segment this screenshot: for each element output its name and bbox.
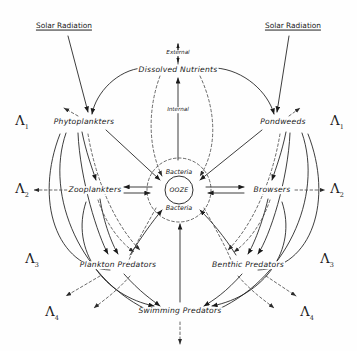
lambda-symbol: Λ bbox=[330, 113, 339, 128]
node-plankton-predators: Plankton Predators bbox=[79, 261, 157, 269]
lambda-symbol: Λ bbox=[15, 181, 24, 196]
arrow-pondweeds-outer-to-swimming-predators bbox=[212, 133, 308, 312]
flow-label-internal: Internal bbox=[166, 107, 190, 113]
lambda-symbol: Λ bbox=[330, 181, 339, 196]
node-browsers: Browsers bbox=[253, 186, 292, 194]
lambda-1-left: Λ1 bbox=[15, 114, 29, 130]
node-dissolved-nutrients: Dissolved Nutrients bbox=[138, 66, 219, 74]
arrow-plankton-predators-dashed-out bbox=[94, 276, 130, 308]
lambda-subscript: 2 bbox=[340, 191, 344, 199]
lambda-subscript: 1 bbox=[25, 123, 29, 131]
arrow-nutrients-dashed-to-bacteria-right bbox=[200, 76, 213, 176]
flow-label-external: External bbox=[165, 50, 190, 56]
arrow-plankton-predators-lambda3 bbox=[66, 276, 100, 296]
lambda-2-left: Λ2 bbox=[15, 182, 29, 198]
lambda-symbol: Λ bbox=[15, 113, 24, 128]
lambda-3-right: Λ3 bbox=[320, 252, 334, 268]
arrow-zooplankters-to-plankton-predators bbox=[100, 199, 118, 254]
lambda-subscript: 3 bbox=[35, 261, 39, 269]
arrow-solar-to-pondweeds bbox=[277, 36, 289, 112]
arrow-benthic-predators-dashed-out bbox=[238, 276, 274, 308]
arrow-plankton-predators-to-swimming-predators bbox=[124, 274, 160, 306]
node-swimming-predators: Swimming Predators bbox=[137, 307, 222, 315]
lambda-4-right: Λ4 bbox=[300, 305, 314, 321]
ooze-label: OOZE bbox=[169, 187, 188, 193]
arrow-plankton-predators-to-bacteria bbox=[130, 210, 162, 255]
node-benthic-predators: Benthic Predators bbox=[211, 261, 285, 269]
lambda-2-right: Λ2 bbox=[330, 182, 344, 198]
lambda-subscript: 1 bbox=[340, 123, 344, 131]
node-zooplankters: Zooplankters bbox=[67, 186, 122, 194]
bacteria-label-top: Bacteria bbox=[166, 169, 193, 175]
arrow-benthic-predators-to-bacteria bbox=[200, 210, 236, 255]
node-phytoplankters: Phytoplankters bbox=[53, 118, 116, 126]
lambda-subscript: 3 bbox=[330, 261, 334, 269]
source-label-solar-right: Solar Radiation bbox=[265, 22, 321, 31]
arrow-nutrients-to-phytoplankters bbox=[92, 68, 142, 114]
arrow-solar-to-phytoplankters bbox=[68, 36, 88, 112]
arrow-phytoplankters-lambda1 bbox=[64, 108, 78, 116]
lambda-symbol: Λ bbox=[320, 251, 329, 266]
arrow-nutrients-dashed-to-bacteria-left bbox=[151, 76, 162, 176]
arrow-benthic-predators-to-swimming-predators bbox=[204, 274, 242, 306]
arrow-browsers-to-benthic-predators bbox=[248, 199, 268, 254]
lambda-symbol: Λ bbox=[25, 251, 34, 266]
lambda-1-right: Λ1 bbox=[330, 114, 344, 130]
lambda-subscript: 2 bbox=[25, 191, 29, 199]
arrow-benthic-predators-lambda3 bbox=[266, 276, 296, 296]
arrow-browsers-dashed-to-predators bbox=[234, 200, 270, 252]
lambda-symbol: Λ bbox=[45, 304, 54, 319]
arrow-pondweeds-lambda1 bbox=[289, 108, 300, 116]
arrow-bacteria-dashed-to-benthic-predators bbox=[204, 208, 234, 268]
lambda-subscript: 4 bbox=[55, 314, 59, 322]
source-label-solar-left: Solar Radiation bbox=[36, 22, 92, 31]
lambda-4-left: Λ4 bbox=[45, 305, 59, 321]
node-pondweeds: Pondweeds bbox=[259, 118, 306, 126]
lambda-3-left: Λ3 bbox=[25, 252, 39, 268]
bacteria-label-bottom: Bacteria bbox=[166, 205, 193, 211]
ecosystem-diagram-canvas: Solar Radiation Solar Radiation External… bbox=[0, 0, 357, 351]
lambda-symbol: Λ bbox=[300, 304, 309, 319]
lambda-subscript: 4 bbox=[310, 314, 314, 322]
arrow-nutrients-to-pondweeds bbox=[216, 68, 274, 114]
